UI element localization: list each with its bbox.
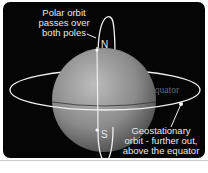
north-pole-label: N [101, 40, 108, 50]
polar-orbit-label: Polar orbit passes over both poles [31, 8, 97, 38]
diagram-panel: Polar orbit passes over both poles N S E… [3, 2, 205, 158]
caption-strip [0, 160, 208, 173]
south-pole-label: S [101, 130, 108, 140]
geostationary-orbit-label: Geostationary orbit - further out, above… [115, 126, 205, 156]
equator-label: Equator [149, 85, 179, 95]
